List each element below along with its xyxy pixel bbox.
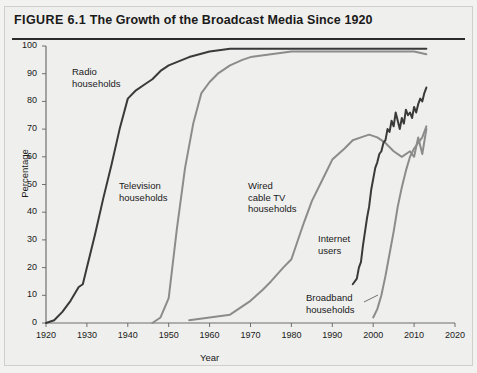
y-tick-label: 0 [13, 317, 37, 327]
x-tick-label: 1930 [70, 330, 104, 340]
y-tick-label: 50 [13, 179, 37, 189]
series-annotation-label: Television households [119, 180, 168, 203]
x-tick-label: 1970 [234, 330, 268, 340]
y-tick-label: 60 [13, 151, 37, 161]
chart-plot-area: Percentage Year 0102030405060708090100 1… [0, 0, 477, 373]
x-tick-label: 1950 [152, 330, 186, 340]
x-tick-label: 1920 [29, 330, 63, 340]
x-tick-label: 1980 [274, 330, 308, 340]
x-tick-label: 1990 [315, 330, 349, 340]
x-tick-label: 2010 [397, 330, 431, 340]
y-tick-label: 30 [13, 234, 37, 244]
y-axis-title: Percentage [19, 134, 30, 214]
figure-container: FIGURE 6.1 The Growth of the Broadcast M… [0, 0, 477, 373]
y-tick-label: 20 [13, 262, 37, 272]
chart-svg [0, 0, 477, 373]
y-tick-label: 90 [13, 68, 37, 78]
x-tick-label: 2000 [356, 330, 390, 340]
series-line-radio-households [46, 49, 426, 323]
series-annotation-label: Wired cable TV households [248, 180, 297, 215]
annotation-leader-lines [364, 295, 378, 302]
y-tick-label: 70 [13, 123, 37, 133]
x-tick-label: 2020 [438, 330, 472, 340]
y-tick-label: 40 [13, 206, 37, 216]
series-annotation-label: Broadband households [306, 292, 355, 315]
chart-series-group [46, 49, 426, 323]
y-tick-label: 100 [13, 40, 37, 50]
x-axis-title: Year [200, 352, 219, 363]
y-tick-label: 10 [13, 289, 37, 299]
series-annotation-label: Radio households [72, 66, 121, 89]
y-tick-label: 80 [13, 95, 37, 105]
series-annotation-label: Internet users [318, 233, 350, 256]
x-tick-label: 1940 [111, 330, 145, 340]
broadband-leader-line [364, 295, 378, 302]
x-tick-label: 1960 [193, 330, 227, 340]
